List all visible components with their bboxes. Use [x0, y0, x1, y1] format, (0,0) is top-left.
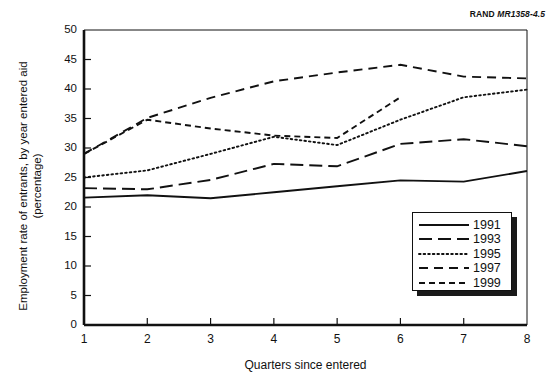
legend-label-1993: 1993	[473, 233, 501, 245]
legend-item-1997[interactable]: 1997	[413, 261, 511, 276]
legend-key-1999	[418, 277, 470, 289]
legend-label-1999: 1999	[473, 277, 501, 289]
legend-label-1995: 1995	[473, 248, 501, 260]
legend-item-1999[interactable]: 1999	[413, 275, 511, 290]
legend-label-1997: 1997	[473, 262, 501, 274]
plot-area	[0, 0, 553, 384]
legend-item-1993[interactable]: 1993	[413, 232, 511, 247]
legend-key-1995	[418, 248, 470, 260]
legend-label-1991: 1991	[473, 219, 501, 231]
legend[interactable]: 19911993199519971999	[412, 212, 512, 291]
legend-key-1993	[418, 233, 470, 245]
data-series-group	[84, 65, 527, 198]
legend-key-1997	[418, 262, 470, 274]
chart-figure: RAND MR1358-4.5 Employment rate of entra…	[0, 0, 553, 384]
legend-key-1991	[418, 219, 470, 231]
series-line-1995	[84, 90, 527, 178]
legend-item-1991[interactable]: 1991	[413, 217, 511, 232]
series-line-1991	[84, 171, 527, 198]
legend-item-1995[interactable]: 1995	[413, 246, 511, 261]
